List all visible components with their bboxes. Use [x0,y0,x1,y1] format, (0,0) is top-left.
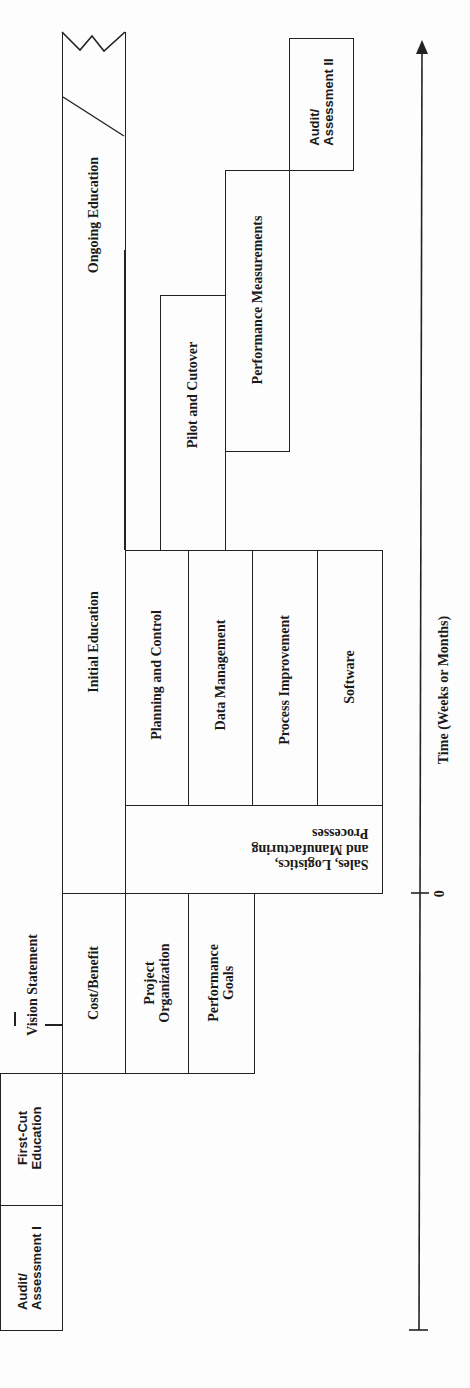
axis-arrow-icon [416,40,428,54]
zigzag-break-icon [62,32,125,51]
axis-zero-label: 0 [432,890,447,897]
time-axis [419,50,422,1330]
diagram-lines [0,0,470,1388]
education-divider [63,97,124,136]
axis-label: Time (Weeks or Months) [436,616,451,764]
